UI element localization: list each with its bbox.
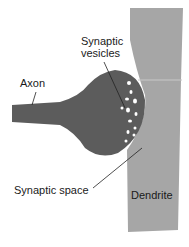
dendrite-label: Dendrite	[131, 189, 173, 201]
synaptic-space-label: Synaptic space	[14, 184, 89, 196]
synaptic-vesicles-label-line2: vesicles	[81, 47, 123, 59]
synaptic-vesicles-label-line1: Synaptic	[81, 35, 123, 47]
synaptic-vesicles-label: Synaptic vesicles	[81, 35, 123, 59]
axon-label: Axon	[20, 77, 45, 89]
axon-leader-line	[32, 92, 36, 105]
